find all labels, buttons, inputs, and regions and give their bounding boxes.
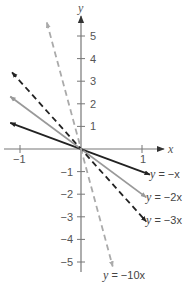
series-line bbox=[10, 97, 146, 198]
series-line bbox=[12, 72, 146, 221]
series-label: y = −3x bbox=[145, 213, 182, 227]
series-label: y = −10x bbox=[102, 268, 146, 282]
axes: x y bbox=[4, 1, 174, 272]
y-tick-label: 3 bbox=[90, 75, 96, 87]
series-label: y = −x bbox=[149, 167, 180, 181]
x-tick-label: −1 bbox=[13, 153, 26, 165]
y-tick-label: 1 bbox=[90, 120, 96, 132]
y-tick-label: 5 bbox=[90, 30, 96, 42]
y-axis-label: y bbox=[77, 1, 84, 15]
y-tick-label: 2 bbox=[90, 98, 96, 110]
y-tick-label: 4 bbox=[90, 53, 96, 65]
line-chart: x y −1154321−1−2−3−4−5 y = −xy = −2xy = … bbox=[0, 0, 194, 286]
y-tick-label: −3 bbox=[60, 211, 73, 223]
y-tick-label: −1 bbox=[60, 166, 73, 178]
series-labels: y = −xy = −2xy = −3xy = −10x bbox=[102, 167, 182, 282]
y-tick-label: −5 bbox=[60, 256, 73, 268]
y-tick-label: −4 bbox=[60, 233, 73, 245]
x-axis-label: x bbox=[167, 142, 174, 156]
series-label: y = −2x bbox=[145, 190, 182, 204]
x-tick-label: 1 bbox=[140, 153, 146, 165]
y-tick-label: −2 bbox=[60, 188, 73, 200]
